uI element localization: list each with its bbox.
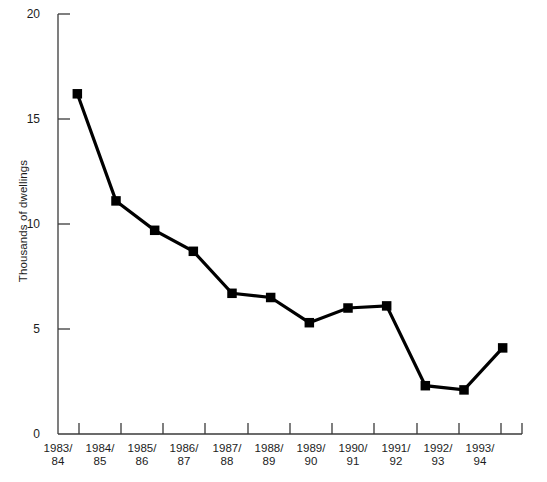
data-point-marker — [459, 385, 469, 395]
data-point-marker — [498, 343, 508, 353]
data-point-marker — [73, 89, 83, 99]
data-point-marker — [189, 247, 199, 256]
x-tick-line1: 1985/ — [128, 442, 157, 454]
x-tick-line1: 1986/ — [170, 442, 199, 454]
x-axis-ticks — [79, 423, 522, 434]
data-point-marker — [305, 318, 315, 328]
data-point-marker — [421, 381, 431, 391]
data-point-marker — [343, 303, 353, 313]
figure-footnote — [2, 474, 545, 482]
x-tick-line1: 1991/ — [382, 442, 411, 454]
data-point-marker — [111, 196, 121, 206]
y-axis-ticks — [58, 14, 70, 329]
x-tick-label-1993-94: 1993/ 94 — [453, 442, 507, 468]
x-tick-line1: 1988/ — [255, 442, 284, 454]
data-point-marker — [266, 293, 276, 303]
x-tick-line1: 1987/ — [213, 442, 242, 454]
data-point-marker — [227, 289, 237, 299]
x-tick-line1: 1993/ — [466, 442, 495, 454]
data-point-marker — [150, 226, 160, 236]
x-tick-line1: 1990/ — [339, 442, 368, 454]
chart-container: Thousands of dwellings 20 15 10 5 0 — [0, 0, 547, 482]
x-tick-line1: 1983/ — [44, 442, 73, 454]
x-tick-line1: 1989/ — [297, 442, 326, 454]
series-markers — [73, 89, 508, 395]
series-line — [77, 94, 502, 390]
data-point-marker — [382, 301, 392, 311]
x-tick-line1: 1992/ — [424, 442, 453, 454]
chart-plot-svg — [0, 0, 547, 482]
x-tick-line1: 1984/ — [86, 442, 115, 454]
x-tick-line2: 94 — [453, 455, 507, 468]
